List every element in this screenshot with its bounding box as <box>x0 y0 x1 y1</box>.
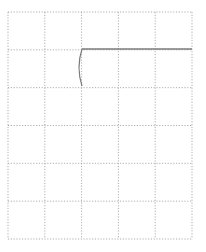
dotted-grid <box>8 12 192 239</box>
grid-diagram <box>0 0 206 252</box>
